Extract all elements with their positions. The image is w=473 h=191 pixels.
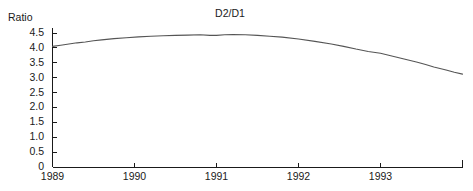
- data-series-group: [53, 34, 463, 74]
- chart-container: Ratio D2/D1 4.54.03.53.02.52.01.51.00.50…: [0, 0, 473, 191]
- plot-area: [0, 0, 473, 191]
- data-line-1: [53, 34, 463, 74]
- axes-group: [53, 28, 463, 167]
